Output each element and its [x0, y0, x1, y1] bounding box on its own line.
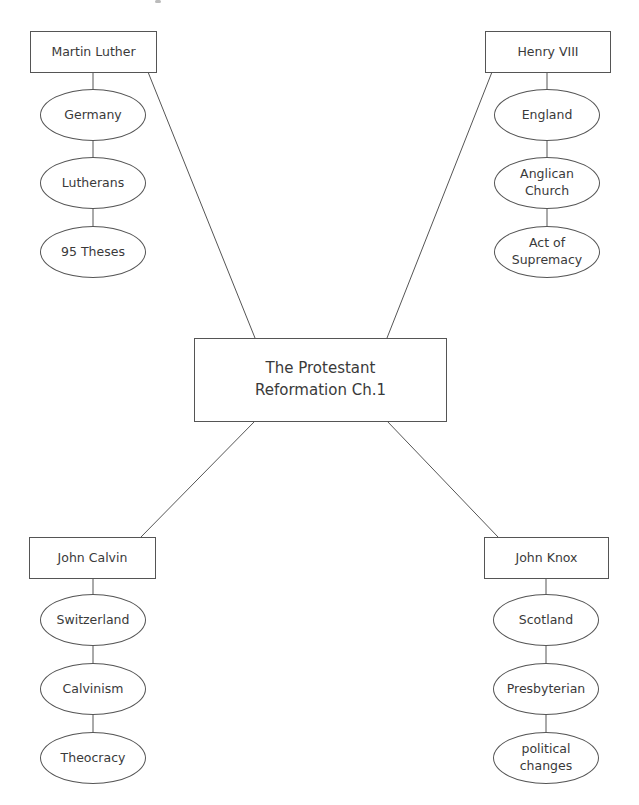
detail-node-knox-1: Presbyterian [493, 663, 599, 715]
connector-central-knox [387, 421, 498, 537]
central-topic-label: The Protestant Reformation Ch.1 [255, 358, 386, 402]
detail-label: Act of Supremacy [512, 235, 582, 269]
connector-central-luther [148, 72, 255, 338]
detail-node-luther-0: Germany [40, 89, 146, 141]
branch-head-label: Martin Luther [51, 44, 135, 60]
detail-node-calvin-0: Switzerland [40, 594, 146, 646]
branch-head-label: Henry VIII [517, 44, 578, 60]
detail-node-henry-1: Anglican Church [494, 157, 600, 209]
branch-head-label: John Calvin [58, 550, 128, 566]
detail-label: Switzerland [57, 612, 130, 629]
detail-node-calvin-1: Calvinism [40, 663, 146, 715]
detail-node-henry-2: Act of Supremacy [494, 226, 600, 278]
detail-label: England [522, 107, 573, 124]
central-topic-box: The Protestant Reformation Ch.1 [194, 338, 447, 422]
detail-label: Theocracy [61, 750, 126, 767]
branch-head-knox: John Knox [484, 537, 609, 579]
detail-label: Germany [64, 107, 121, 124]
scan-artifact [155, 0, 161, 3]
detail-node-knox-0: Scotland [493, 594, 599, 646]
branch-head-luther: Martin Luther [30, 31, 157, 73]
detail-node-henry-0: England [494, 89, 600, 141]
detail-label: Anglican Church [520, 166, 574, 200]
branch-head-henry: Henry VIII [485, 31, 611, 73]
detail-label: Calvinism [63, 681, 124, 698]
detail-node-knox-2: political changes [493, 732, 599, 784]
branch-head-calvin: John Calvin [29, 537, 156, 579]
connector-central-henry [387, 72, 492, 338]
connector-central-calvin [141, 421, 255, 537]
detail-label: Lutherans [62, 175, 124, 192]
detail-label: political changes [520, 741, 573, 775]
detail-node-calvin-2: Theocracy [40, 732, 146, 784]
branch-head-label: John Knox [516, 550, 578, 566]
detail-label: Scotland [519, 612, 573, 629]
detail-node-luther-1: Lutherans [40, 157, 146, 209]
detail-label: 95 Theses [61, 244, 125, 261]
detail-label: Presbyterian [507, 681, 586, 698]
detail-node-luther-2: 95 Theses [40, 226, 146, 278]
